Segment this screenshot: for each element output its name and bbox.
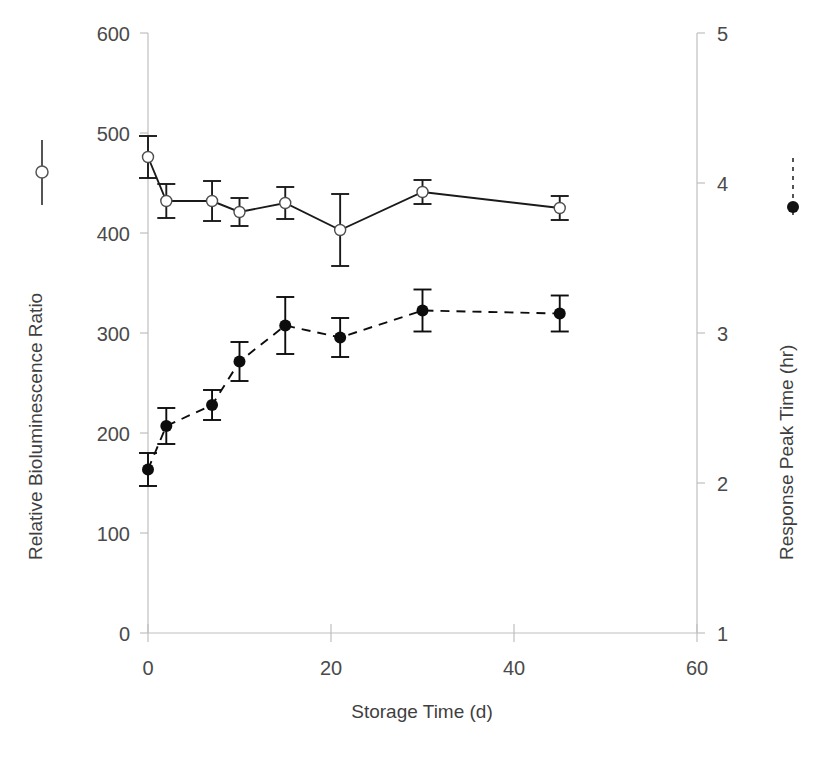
- dual-axis-line-chart: 0100200300400500600123450204060 Relative…: [0, 0, 816, 763]
- data-point-open-circle: [207, 196, 218, 207]
- x-tick-label: 0: [142, 657, 153, 679]
- y-right-tick-label: 4: [717, 173, 728, 195]
- data-point-open-circle: [335, 225, 346, 236]
- legend-left-open-circle-icon: [36, 166, 48, 178]
- y-left-axis-title: Relative Bioluminescence Ratio: [25, 293, 46, 560]
- x-tick-label: 40: [503, 657, 525, 679]
- data-point-filled-circle: [142, 464, 154, 476]
- chart-background: [0, 0, 816, 763]
- y-right-tick-label: 5: [717, 23, 728, 45]
- y-left-tick-label: 500: [97, 123, 130, 145]
- y-left-tick-label: 0: [119, 623, 130, 645]
- data-point-filled-circle: [279, 320, 291, 332]
- y-right-tick-label: 3: [717, 323, 728, 345]
- data-point-open-circle: [143, 152, 154, 163]
- data-point-filled-circle: [334, 332, 346, 344]
- y-right-tick-label: 1: [717, 623, 728, 645]
- y-left-tick-label: 200: [97, 423, 130, 445]
- data-point-open-circle: [161, 196, 172, 207]
- data-point-open-circle: [417, 187, 428, 198]
- chart-figure: 0100200300400500600123450204060 Relative…: [0, 0, 816, 763]
- y-left-tick-label: 600: [97, 23, 130, 45]
- data-point-filled-circle: [234, 356, 246, 368]
- data-point-filled-circle: [160, 420, 172, 432]
- y-right-axis-title: Response Peak Time (hr): [776, 345, 797, 560]
- x-tick-label: 60: [686, 657, 708, 679]
- data-point-open-circle: [234, 207, 245, 218]
- data-point-filled-circle: [206, 399, 218, 411]
- data-point-open-circle: [554, 203, 565, 214]
- legend-right-filled-circle-icon: [787, 201, 799, 213]
- y-left-tick-label: 400: [97, 223, 130, 245]
- x-tick-label: 20: [320, 657, 342, 679]
- y-right-tick-label: 2: [717, 473, 728, 495]
- data-point-filled-circle: [417, 305, 429, 317]
- y-left-tick-label: 100: [97, 523, 130, 545]
- x-axis-title: Storage Time (d): [351, 701, 493, 722]
- data-point-open-circle: [280, 198, 291, 209]
- y-left-tick-label: 300: [97, 323, 130, 345]
- data-point-filled-circle: [554, 308, 566, 320]
